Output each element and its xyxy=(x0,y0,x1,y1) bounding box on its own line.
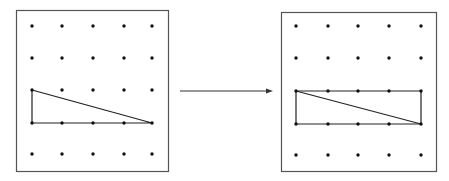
right-peg-dot xyxy=(326,56,329,59)
left-peg-dot xyxy=(60,88,63,91)
right-peg-dot xyxy=(294,153,297,156)
left-peg-dot xyxy=(30,56,33,59)
left-right-triangle xyxy=(32,90,152,123)
left-peg-dot xyxy=(91,121,94,124)
geoboard-diagram xyxy=(0,0,449,181)
right-peg-dot xyxy=(356,24,359,27)
right-peg-dot xyxy=(326,153,329,156)
right-peg-dot xyxy=(419,24,422,27)
transformation-arrow xyxy=(180,89,273,94)
right-peg-dot xyxy=(419,89,422,92)
right-peg-dot xyxy=(356,122,359,125)
right-peg-dot xyxy=(326,24,329,27)
left-peg-dot xyxy=(60,121,63,124)
left-peg-dot xyxy=(150,24,153,27)
left-peg-dot xyxy=(91,88,94,91)
right-peg-dot xyxy=(356,153,359,156)
right-peg-dot xyxy=(294,89,297,92)
right-peg-dot xyxy=(326,122,329,125)
right-peg-dot xyxy=(294,24,297,27)
right-peg-dot xyxy=(356,89,359,92)
left-geoboard-panel xyxy=(17,11,169,172)
left-peg-dot xyxy=(150,56,153,59)
right-peg-dot xyxy=(419,153,422,156)
left-peg-dot xyxy=(91,152,94,155)
left-peg-dot xyxy=(30,24,33,27)
left-peg-dot xyxy=(30,88,33,91)
right-peg-dot xyxy=(294,122,297,125)
right-peg-dot xyxy=(294,56,297,59)
left-peg-dot xyxy=(150,152,153,155)
left-peg-dot xyxy=(150,88,153,91)
right-peg-dot xyxy=(419,56,422,59)
left-peg-dot xyxy=(60,152,63,155)
left-peg-dot xyxy=(91,24,94,27)
right-geoboard-panel xyxy=(282,13,437,172)
right-peg-dot xyxy=(387,24,390,27)
right-peg-dot xyxy=(387,56,390,59)
left-peg-dot xyxy=(122,56,125,59)
right-peg-dot xyxy=(387,89,390,92)
right-peg-dot xyxy=(419,122,422,125)
right-peg-dot xyxy=(326,89,329,92)
left-peg-dot xyxy=(150,121,153,124)
left-peg-dot xyxy=(30,121,33,124)
left-peg-dot xyxy=(122,24,125,27)
right-peg-dot xyxy=(387,122,390,125)
left-peg-dot xyxy=(60,24,63,27)
left-peg-dot xyxy=(30,152,33,155)
left-peg-dot xyxy=(122,152,125,155)
left-peg-dot xyxy=(122,121,125,124)
left-peg-dot xyxy=(122,88,125,91)
right-peg-dot xyxy=(387,153,390,156)
left-peg-dot xyxy=(91,56,94,59)
diagram-canvas xyxy=(0,0,449,181)
right-peg-dot xyxy=(356,56,359,59)
left-peg-dot xyxy=(60,56,63,59)
arrow-head-icon xyxy=(266,89,273,94)
right-diagonal xyxy=(296,91,421,124)
